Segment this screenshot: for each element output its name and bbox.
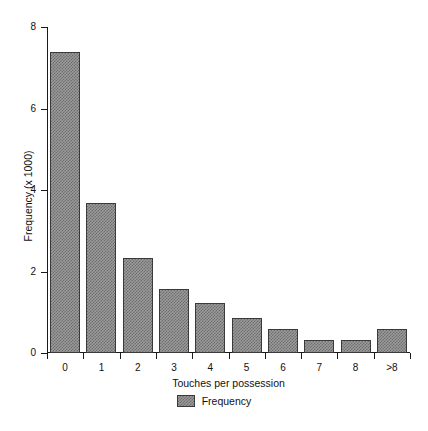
x-tick-label-2: 2 [118,362,158,373]
bar->8 [377,329,407,353]
x-tick-label-0: 0 [45,362,85,373]
x-tick-3 [192,353,193,359]
x-tick-label-7: 7 [299,362,339,373]
bar-4 [195,303,225,353]
x-tick-1 [120,353,121,359]
x-tick-label->8: >8 [372,362,412,373]
x-tick-label-3: 3 [154,362,194,373]
bar-0 [50,52,80,353]
bar-1 [86,203,116,353]
bar-3 [159,289,189,353]
x-tick-7 [337,353,338,359]
bar-chart: 02468 012345678>8 Touches per possession… [0,0,428,431]
x-tick-4 [229,353,230,359]
y-tick-label-8: 8 [6,22,36,32]
plot-area [47,27,410,353]
x-tick-0 [83,353,84,359]
x-tick-8 [374,353,375,359]
bar-6 [268,329,298,353]
x-tick-label-4: 4 [190,362,230,373]
legend: Frequency [0,395,428,407]
bar-2 [123,258,153,353]
x-tick-5 [265,353,266,359]
x-tick-6 [301,353,302,359]
legend-swatch-frequency [177,395,195,407]
x-tick-9 [410,353,411,359]
bar-8 [341,340,371,353]
x-tick-origin [47,353,48,359]
x-tick-2 [156,353,157,359]
x-tick-label-8: 8 [336,362,376,373]
x-axis-title: Touches per possession [47,377,410,389]
x-tick-label-1: 1 [81,362,121,373]
bar-5 [232,318,262,353]
x-tick-label-5: 5 [227,362,267,373]
x-tick-label-6: 6 [263,362,303,373]
y-tick-label-0: 0 [6,348,36,358]
y-axis-title: Frequency (x 1000) [22,96,34,296]
legend-label-frequency: Frequency [202,395,252,407]
bar-7 [304,340,334,353]
